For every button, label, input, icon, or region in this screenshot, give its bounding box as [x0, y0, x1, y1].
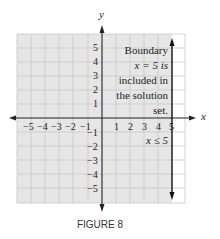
y-tick-label: 1	[93, 98, 98, 109]
annotation-line: the solution	[106, 88, 168, 103]
inequality-label: x ≤ 5	[140, 134, 168, 146]
figure-caption: FIGURE 8	[0, 219, 200, 230]
y-tick-label: −5	[87, 183, 98, 194]
y-tick-label: 3	[93, 70, 98, 81]
annotation-line: included in	[106, 73, 168, 88]
y-axis-label: y	[99, 8, 104, 20]
annotation-line: Boundary	[106, 43, 168, 58]
x-tick-label: 4	[156, 121, 161, 132]
x-tick-label: −3	[51, 121, 62, 132]
x-tick-label: 1	[114, 121, 119, 132]
x-axis-left-arrow-icon	[9, 116, 16, 121]
x-tick-label: 3	[142, 121, 147, 132]
y-axis-up-arrow-icon	[100, 25, 105, 33]
boundary-annotation: Boundary x = 5 is included in the soluti…	[106, 43, 168, 118]
y-tick-label: 4	[93, 56, 98, 67]
annotation-line: set.	[106, 103, 168, 118]
x-tick-label: −5	[23, 121, 34, 132]
y-tick-label: −2	[87, 141, 98, 152]
y-tick-label: 2	[93, 84, 98, 95]
x-tick-label: 2	[128, 121, 133, 132]
y-tick-label: −4	[87, 169, 98, 180]
inequality-graph	[0, 0, 220, 239]
x-tick-label: −4	[37, 121, 48, 132]
y-tick-label: −3	[87, 155, 98, 166]
y-axis-down-arrow-icon	[100, 204, 105, 212]
x-axis-right-arrow-icon	[189, 116, 196, 121]
x-tick-label: 5	[169, 121, 174, 132]
y-tick-label: 5	[93, 42, 98, 53]
y-tick-label: −1	[87, 127, 98, 138]
x-tick-label: −2	[65, 121, 76, 132]
annotation-line: x = 5 is	[106, 58, 168, 73]
x-tick-labels: −5 −4 −3 −2 −1 1 2 3 4 5	[0, 121, 220, 135]
